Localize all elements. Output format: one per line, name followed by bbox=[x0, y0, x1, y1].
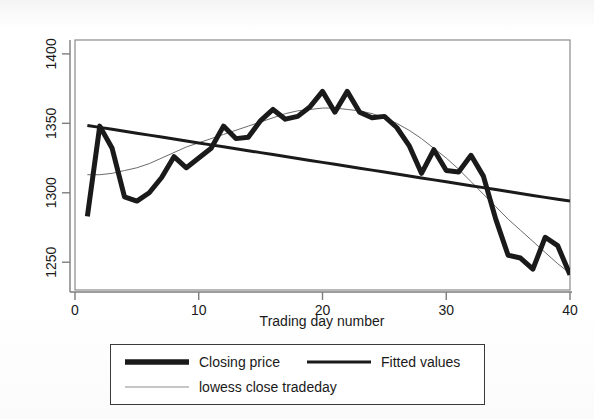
legend-svg: Closing price Fitted values lowess close… bbox=[111, 345, 483, 403]
y-tick-label: 1400 bbox=[43, 38, 59, 69]
x-axis-ticks bbox=[75, 292, 570, 300]
y-tick-label: 1250 bbox=[43, 246, 59, 277]
legend-label-fitted-values: Fitted values bbox=[381, 354, 460, 370]
x-tick-label: 10 bbox=[191, 302, 207, 318]
chart-figure: 1250130013501400 010203040 Trading day n… bbox=[0, 0, 594, 419]
x-axis-title: Trading day number bbox=[260, 313, 385, 329]
y-axis-tick-labels: 1250130013501400 bbox=[43, 38, 59, 278]
x-tick-label: 0 bbox=[71, 302, 79, 318]
y-tick-label: 1300 bbox=[43, 177, 59, 208]
x-tick-label: 30 bbox=[438, 302, 454, 318]
legend-label-lowess: lowess close tradeday bbox=[199, 379, 337, 395]
legend-label-closing-price: Closing price bbox=[199, 354, 280, 370]
y-axis-ticks bbox=[62, 54, 70, 262]
plot-area-frame bbox=[75, 40, 570, 290]
y-tick-label: 1350 bbox=[43, 108, 59, 139]
x-tick-label: 40 bbox=[562, 302, 578, 318]
legend-box: Closing price Fitted values lowess close… bbox=[110, 344, 485, 405]
